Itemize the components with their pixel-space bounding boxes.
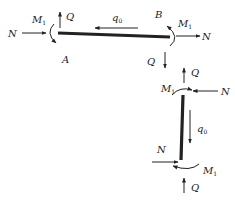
end-label-a: A bbox=[61, 54, 69, 65]
end-label-b: B bbox=[154, 9, 162, 20]
bottom-moment-label: M1 bbox=[202, 165, 217, 177]
horizontal-beam bbox=[58, 33, 170, 37]
vertical-beam bbox=[181, 95, 183, 160]
right-shear-label: Q bbox=[147, 56, 155, 67]
top-moment-label: M1 bbox=[160, 83, 175, 95]
left-shear-label: Q bbox=[66, 11, 74, 22]
top-axial-label: N bbox=[220, 86, 231, 97]
bottom-axial-label: N bbox=[156, 144, 167, 155]
left-moment-arc bbox=[50, 24, 56, 43]
left-axial-label: N bbox=[7, 28, 18, 39]
bottom-moment-arc bbox=[173, 164, 199, 169]
vertical-distributed-load-label: q0 bbox=[197, 123, 207, 135]
free-body-diagram: N M1 Q A q0 B M1 N Q Q M1 N q0 N M1 Q bbox=[0, 0, 235, 203]
left-moment-label: M1 bbox=[31, 14, 46, 26]
top-shear-label: Q bbox=[191, 67, 199, 78]
right-axial-label: N bbox=[201, 31, 212, 42]
horizontal-distributed-load-label: q0 bbox=[112, 12, 122, 24]
right-moment-label: M1 bbox=[177, 18, 192, 30]
bottom-shear-label: Q bbox=[191, 182, 199, 193]
